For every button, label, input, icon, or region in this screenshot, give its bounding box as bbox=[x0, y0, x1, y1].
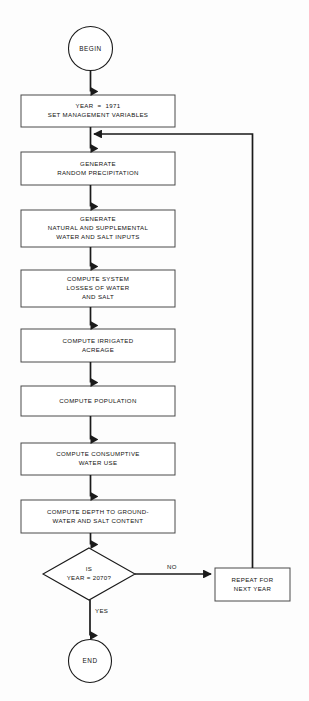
node-consumptive-shape bbox=[21, 443, 175, 475]
node-decision-shape bbox=[43, 548, 135, 600]
node-inputs-shape bbox=[21, 210, 175, 247]
edge-label-yes: YES bbox=[95, 607, 108, 614]
flowchart-graphics bbox=[0, 0, 309, 701]
node-repeat-shape bbox=[215, 568, 290, 601]
node-depth-shape bbox=[21, 500, 175, 533]
node-population-shape bbox=[21, 386, 175, 416]
node-begin-shape bbox=[69, 27, 113, 71]
node-losses-shape bbox=[21, 270, 175, 307]
node-acreage-shape bbox=[21, 329, 175, 362]
node-init-shape bbox=[21, 95, 175, 127]
node-precip-shape bbox=[21, 152, 175, 185]
node-end-shape bbox=[69, 640, 112, 683]
edge-label-no: NO bbox=[167, 563, 177, 570]
flowchart-canvas: BEGIN YEAR = 1971 SET MANAGEMENT VARIABL… bbox=[0, 0, 309, 701]
